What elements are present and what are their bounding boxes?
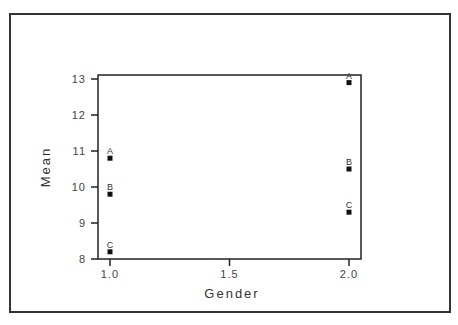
point-label: A	[107, 146, 113, 156]
data-point-a	[108, 156, 113, 161]
x-tick-label: 1.0	[101, 268, 119, 280]
point-label: B	[346, 157, 352, 167]
y-tick-label: 11	[73, 145, 86, 157]
x-tick-label: 1.5	[220, 268, 238, 280]
data-point-a	[347, 80, 352, 85]
data-point-b	[108, 192, 113, 197]
point-label: A	[346, 71, 352, 81]
y-tick-label: 8	[79, 253, 86, 265]
x-axis-title: Gender	[204, 286, 259, 301]
data-point-b	[347, 167, 352, 172]
point-label: C	[346, 200, 353, 210]
y-axis-title: Mean	[38, 147, 53, 188]
point-label: C	[107, 240, 114, 250]
plot-box	[98, 75, 361, 259]
x-tick-label: 2.0	[340, 268, 358, 280]
y-tick-label: 12	[72, 109, 86, 121]
y-tick-label: 13	[72, 73, 86, 85]
data-point-c	[347, 210, 352, 215]
data-point-c	[108, 249, 113, 254]
y-tick-label: 9	[79, 217, 86, 229]
point-label: B	[107, 182, 113, 192]
y-tick-label: 10	[72, 181, 86, 193]
plot-area: 89101112131.01.52.0AABBCC	[72, 71, 361, 280]
scatter-chart: 89101112131.01.52.0AABBCC Gender Mean	[0, 0, 458, 325]
